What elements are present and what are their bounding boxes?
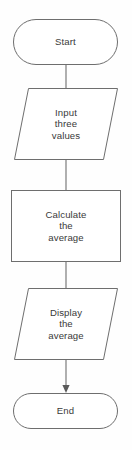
node-end-shape [14, 394, 118, 429]
node-start-shape [14, 20, 118, 65]
node-input-shape [15, 89, 118, 160]
node-process-shape [12, 191, 121, 262]
flowchart-diagram: Start Input three values Calculate the a… [0, 0, 132, 450]
arrow-head-icon [62, 385, 69, 393]
node-display-shape [15, 289, 118, 360]
flowchart-canvas-svg [0, 0, 132, 450]
